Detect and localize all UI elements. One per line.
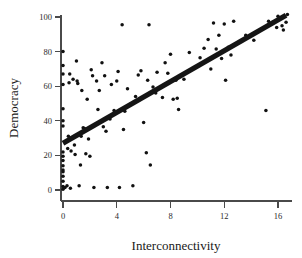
- data-point: [131, 184, 135, 188]
- data-point: [252, 39, 256, 43]
- data-point: [103, 74, 107, 78]
- data-point: [110, 83, 114, 87]
- data-point: [120, 23, 124, 27]
- data-point: [65, 184, 69, 188]
- data-point: [75, 59, 79, 63]
- y-tick-label: 0: [48, 185, 52, 195]
- data-point: [80, 89, 84, 93]
- data-point: [104, 129, 108, 133]
- data-point: [102, 125, 106, 129]
- data-point: [223, 22, 227, 26]
- data-point: [198, 56, 202, 60]
- data-point: [98, 89, 102, 93]
- y-axis-ticks: 020406080100: [39, 12, 61, 195]
- data-point: [264, 109, 268, 113]
- data-point: [126, 87, 130, 91]
- data-point: [163, 61, 167, 64]
- data-point: [147, 23, 151, 27]
- data-point: [139, 69, 143, 73]
- x-tick-label: 12: [220, 211, 229, 221]
- data-point: [209, 67, 213, 71]
- data-point: [282, 28, 286, 32]
- y-axis-title: Democracy: [6, 78, 21, 138]
- data-point: [73, 143, 77, 147]
- data-point: [76, 82, 80, 86]
- data-point: [61, 164, 65, 168]
- data-point: [284, 20, 288, 24]
- y-tick-label: 60: [44, 81, 53, 91]
- data-point: [61, 180, 65, 184]
- data-point: [275, 26, 279, 30]
- data-point: [61, 72, 65, 76]
- data-point: [100, 61, 104, 64]
- data-point: [85, 97, 89, 101]
- data-point: [61, 124, 65, 128]
- data-point: [232, 20, 236, 24]
- data-points-group: [61, 13, 289, 191]
- data-point: [145, 151, 149, 155]
- data-point: [229, 53, 233, 57]
- y-tick-label: 100: [39, 12, 52, 22]
- data-point: [118, 186, 122, 190]
- data-point: [61, 159, 65, 163]
- data-point: [73, 153, 77, 157]
- data-point: [106, 186, 110, 190]
- data-point: [88, 155, 92, 159]
- data-point: [95, 79, 99, 83]
- data-point: [61, 83, 65, 87]
- data-point: [214, 47, 218, 51]
- data-point: [134, 95, 138, 99]
- data-point: [116, 70, 120, 74]
- x-axis-title: Interconnectivity: [132, 238, 221, 253]
- data-point: [217, 33, 221, 37]
- data-point: [61, 155, 65, 159]
- data-point: [79, 163, 83, 167]
- chart-figure: 020406080100 0481216 Interconnectivity D…: [0, 0, 302, 258]
- data-point: [212, 21, 216, 25]
- data-point: [171, 97, 175, 101]
- data-point: [92, 186, 96, 190]
- data-point: [61, 107, 65, 111]
- data-point: [220, 57, 224, 61]
- x-tick-label: 16: [274, 211, 283, 221]
- data-point: [155, 71, 159, 75]
- data-point: [182, 78, 186, 82]
- data-point: [61, 50, 65, 54]
- data-point: [91, 74, 95, 78]
- data-point: [146, 78, 150, 82]
- data-point: [224, 78, 228, 82]
- data-point: [77, 184, 81, 188]
- data-point: [169, 52, 173, 56]
- data-point: [175, 97, 179, 101]
- data-point: [61, 150, 65, 154]
- scatter-plot-canvas: 020406080100 0481216 Interconnectivity D…: [0, 0, 302, 258]
- y-tick-label: 80: [44, 47, 53, 57]
- data-point: [69, 187, 73, 191]
- data-point: [71, 78, 75, 82]
- y-tick-label: 20: [44, 150, 53, 160]
- data-point: [166, 71, 170, 75]
- data-point: [188, 51, 192, 55]
- data-point: [96, 108, 100, 112]
- data-point: [280, 24, 284, 28]
- data-point: [137, 73, 141, 77]
- data-point: [206, 38, 210, 42]
- data-point: [177, 108, 181, 112]
- data-point: [122, 128, 126, 132]
- data-point: [61, 174, 65, 178]
- data-point: [115, 79, 119, 83]
- data-point: [202, 46, 206, 50]
- data-point: [87, 137, 91, 141]
- data-point: [84, 152, 88, 156]
- data-point: [69, 149, 73, 153]
- data-point: [61, 170, 65, 174]
- data-point: [89, 68, 93, 72]
- y-tick-label: 40: [44, 116, 53, 126]
- data-point: [61, 119, 65, 123]
- x-tick-label: 4: [115, 211, 120, 221]
- data-point: [67, 81, 71, 85]
- data-point: [142, 121, 146, 125]
- data-point: [66, 147, 70, 151]
- data-point: [149, 163, 153, 167]
- data-point: [68, 72, 72, 76]
